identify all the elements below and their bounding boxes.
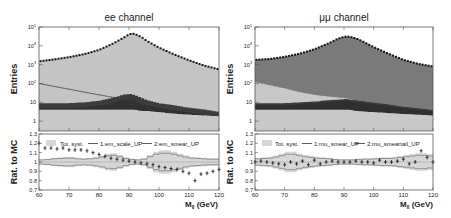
ratio-y-tick-label: 0.8 (245, 178, 253, 184)
data-point (344, 36, 346, 38)
data-point (145, 39, 147, 41)
ratio-y-tick-label: 1.2 (245, 140, 253, 146)
x-axis-label: Mll (GeV) (400, 200, 433, 210)
data-point (85, 53, 87, 55)
data-point (303, 51, 305, 53)
data-point (291, 54, 293, 56)
data-point (49, 59, 51, 61)
ratio-y-tick-label: 1 (34, 159, 37, 165)
data-point (377, 48, 379, 50)
x-tick-label: 100 (154, 192, 165, 198)
data-point (88, 52, 90, 54)
data-point (187, 59, 189, 61)
upper-plot-area (39, 27, 219, 131)
data-point (413, 62, 415, 64)
data-point (404, 59, 406, 61)
legend-var1-label: 1:mu_smear_UP (314, 141, 359, 147)
data-point (407, 60, 409, 62)
ratio-y-tick-label: 1 (250, 159, 253, 165)
x-tick-label: 80 (311, 192, 318, 198)
data-point (297, 53, 299, 55)
data-point (270, 58, 272, 60)
x-tick-label: 80 (96, 192, 103, 198)
data-point (190, 60, 192, 62)
y-tick-label: 1 (33, 118, 36, 124)
data-point (139, 35, 141, 37)
data-point (371, 45, 373, 47)
data-point (148, 41, 150, 43)
data-point (52, 59, 54, 61)
data-point (202, 64, 204, 66)
data-point (309, 50, 311, 52)
x-tick-label: 60 (36, 192, 43, 198)
data-point (160, 47, 162, 49)
data-point (142, 37, 144, 39)
legend-var2-label: 2:mu_smeartail_UP (367, 141, 420, 147)
legend-syst-label: Tot. syst. (60, 141, 84, 147)
data-point (43, 60, 45, 62)
data-point (157, 46, 159, 48)
data-point (383, 51, 385, 53)
data-point (70, 56, 72, 58)
data-point (82, 53, 84, 55)
y-tick-label: 105 (28, 24, 36, 31)
data-point (267, 58, 269, 60)
data-point (294, 54, 296, 56)
data-point (282, 56, 284, 58)
data-point (395, 56, 397, 58)
x-tick-label: 60 (252, 192, 259, 198)
y-axis-label-ratio: Rat. to MC (225, 139, 235, 184)
data-point (184, 58, 186, 60)
data-point (79, 54, 81, 56)
data-point (356, 38, 358, 40)
data-point (67, 56, 69, 58)
data-point (76, 55, 78, 57)
data-point (205, 65, 207, 67)
data-point (276, 57, 278, 59)
ratio-y-tick-label: 0.9 (29, 168, 37, 174)
x-tick-label: 120 (214, 192, 225, 198)
data-point (347, 36, 349, 38)
data-point (64, 57, 66, 59)
data-point (40, 60, 42, 62)
data-point (55, 58, 57, 60)
panel-title: μμ channel (319, 12, 368, 23)
data-point (130, 33, 132, 35)
data-point (374, 47, 376, 49)
data-point (103, 47, 105, 49)
ratio-y-tick-label: 0.9 (245, 168, 253, 174)
x-tick-label: 90 (126, 192, 133, 198)
data-point (127, 34, 129, 36)
x-tick-label: 90 (341, 192, 348, 198)
data-point (333, 40, 335, 42)
legend-syst-swatch (46, 140, 56, 146)
data-point (61, 57, 63, 59)
data-point (100, 48, 102, 50)
y-tick-label: 104 (28, 42, 36, 49)
figure: ee channel Entries 105104103102101 Rat. … (0, 0, 451, 218)
data-point (175, 54, 177, 56)
panel-ee-channel: ee channel Entries 105104103102101 Rat. … (9, 12, 225, 210)
data-point (368, 44, 370, 46)
data-point (312, 49, 314, 51)
data-point (380, 49, 382, 51)
data-point (288, 55, 290, 57)
panel-mumu-channel: μμ channel Entries 105104103102101 Rat. … (225, 12, 439, 210)
y-tick-label: 102 (28, 80, 36, 87)
data-point (133, 33, 135, 35)
data-point (112, 43, 114, 45)
data-point (416, 62, 418, 64)
legend-syst-swatch (262, 140, 272, 146)
data-point (163, 49, 165, 51)
y-tick-label: 10 (30, 99, 36, 105)
data-point (318, 46, 320, 48)
data-point (172, 53, 174, 55)
legend-var2-label: 2:em_smear_UP (154, 141, 199, 147)
data-point (261, 58, 263, 60)
legend-var1-label: 1:em_scale_UP (100, 141, 142, 147)
data-point (264, 58, 266, 60)
data-point (336, 38, 338, 40)
data-point (359, 39, 361, 41)
y-axis-label-ratio: Rat. to MC (9, 139, 19, 184)
x-tick-label: 110 (399, 192, 409, 198)
